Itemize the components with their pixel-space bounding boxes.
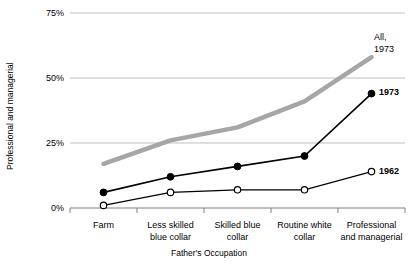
y-tick-label-75: 75% (46, 8, 64, 18)
data-point-1973 (100, 189, 107, 196)
data-point-1973 (368, 90, 375, 97)
gridlines (70, 13, 405, 143)
x-axis-title: Father's Occupation (171, 248, 247, 258)
x-category-label-routine-white-collar-line1: Routine white (277, 220, 332, 230)
x-category-label-skilled-blue-collar-line1: Skilled blue (214, 220, 260, 230)
data-point-1973 (234, 163, 241, 170)
chart-container: 75% 50% 25% 0% Professional and manageri… (0, 0, 418, 264)
x-axis-title-text: Father's Occupation (171, 248, 247, 258)
series-markers-1962 (100, 168, 374, 208)
chart-svg: 75% 50% 25% 0% Professional and manageri… (0, 0, 418, 264)
data-point-1962 (368, 168, 374, 174)
y-axis-title-text: Professional and managerial (5, 62, 15, 170)
x-category-labels: Farm Less skilled blue collar Skilled bl… (93, 220, 403, 242)
y-tick-label-50: 50% (46, 73, 64, 83)
x-category-label-less-skilled-blue-collar-line2: blue collar (150, 232, 191, 242)
data-point-1973 (167, 173, 174, 180)
series-label-all-1973-line2: 1973 (374, 44, 394, 54)
x-category-label-routine-white-collar-line2: collar (294, 232, 316, 242)
y-tick-label-0: 0% (51, 203, 64, 213)
series-all-1973 (104, 57, 372, 164)
data-point-1962 (167, 189, 173, 195)
data-point-1973 (301, 153, 308, 160)
series-label-1973: 1973 (379, 87, 399, 97)
data-point-1962 (234, 187, 240, 193)
series-inline-labels: All, 1973 1973 1962 (374, 32, 399, 176)
y-tick-label-25: 25% (46, 138, 64, 148)
y-tick-labels: 75% 50% 25% 0% (46, 8, 64, 213)
y-axis-title: Professional and managerial (5, 62, 15, 170)
x-axis-ticks (70, 208, 405, 213)
data-point-1962 (100, 202, 106, 208)
x-category-label-skilled-blue-collar-line2: collar (227, 232, 249, 242)
series-label-1962: 1962 (379, 166, 399, 176)
series-line-all-1973 (104, 57, 372, 164)
series-label-all-1973-line1: All, (374, 32, 387, 42)
x-category-label-less-skilled-blue-collar-line1: Less skilled (147, 220, 194, 230)
data-point-1962 (301, 187, 307, 193)
series-1962 (100, 168, 374, 208)
x-category-label-farm: Farm (93, 220, 114, 230)
x-category-label-professional-and-managerial-line1: Professional (347, 220, 397, 230)
x-category-label-professional-and-managerial-line2: and managerial (340, 232, 402, 242)
